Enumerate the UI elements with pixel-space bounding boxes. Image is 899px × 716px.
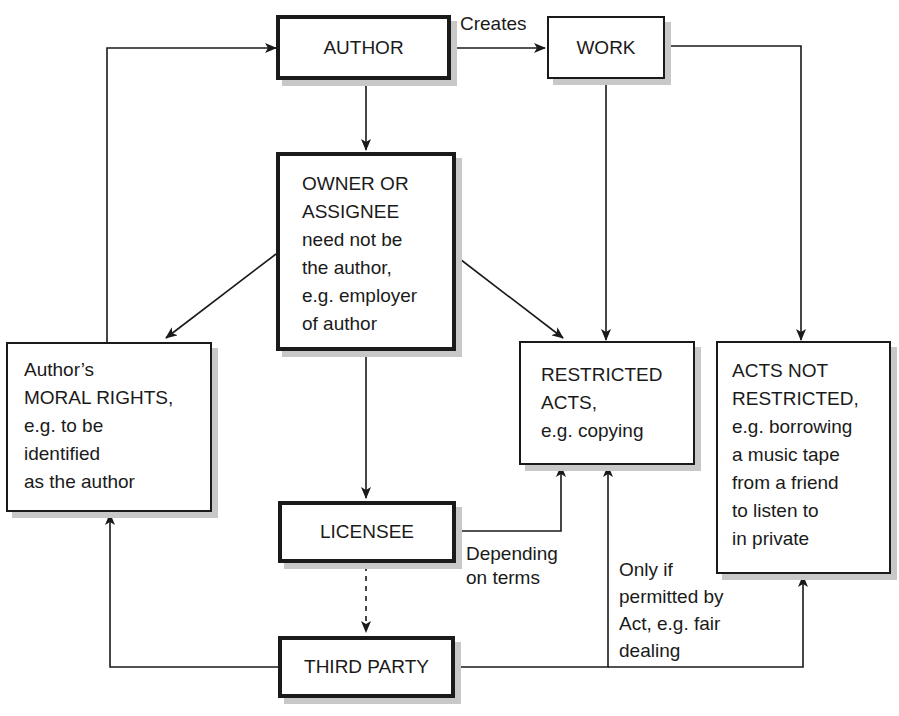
edge-moral-author xyxy=(107,48,276,342)
node-moral-rights-label: Author’s MORAL RIGHTS, e.g. to be identi… xyxy=(24,356,210,496)
edge-thirdparty-moral xyxy=(110,514,278,667)
edge-label-creates: Creates xyxy=(460,12,527,36)
node-author[interactable]: AUTHOR xyxy=(276,15,451,80)
edge-owner-moral xyxy=(166,254,276,338)
node-work-label: WORK xyxy=(576,36,635,60)
node-owner-label: OWNER OR ASSIGNEE need not be the author… xyxy=(302,170,452,338)
node-licensee[interactable]: LICENSEE xyxy=(278,501,456,563)
edge-label-only-if: Only if permitted by Act, e.g. fair deal… xyxy=(619,556,724,664)
node-third-party[interactable]: THIRD PARTY xyxy=(278,636,455,698)
node-acts-not-restricted[interactable]: ACTS NOT RESTRICTED, e.g. borrowing a mu… xyxy=(716,341,891,574)
node-restricted-acts-label: RESTRICTED ACTS, e.g. copying xyxy=(541,361,693,445)
node-licensee-label: LICENSEE xyxy=(320,520,414,544)
edge-owner-restricted xyxy=(456,256,563,338)
edge-label-depending: Depending on terms xyxy=(466,542,558,590)
node-restricted-acts[interactable]: RESTRICTED ACTS, e.g. copying xyxy=(519,341,695,465)
node-owner[interactable]: OWNER OR ASSIGNEE need not be the author… xyxy=(276,152,456,351)
node-work[interactable]: WORK xyxy=(547,16,665,79)
edge-work-notrestricted xyxy=(665,46,801,340)
node-acts-not-restricted-label: ACTS NOT RESTRICTED, e.g. borrowing a mu… xyxy=(732,357,889,553)
edge-licensee-restricted xyxy=(456,466,561,531)
node-third-party-label: THIRD PARTY xyxy=(304,655,429,679)
node-moral-rights[interactable]: Author’s MORAL RIGHTS, e.g. to be identi… xyxy=(6,342,212,512)
node-author-label: AUTHOR xyxy=(323,36,403,60)
